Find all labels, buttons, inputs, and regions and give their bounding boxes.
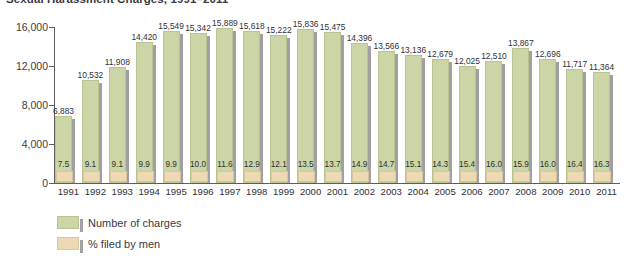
x-axis-label: 2001: [324, 186, 351, 197]
x-axis-label: 1992: [82, 186, 109, 197]
x-axis-label: 1998: [243, 186, 270, 197]
x-axis-label: 1991: [55, 186, 82, 197]
bar-charges[interactable]: 13,86715.9: [512, 48, 529, 183]
bar-charges[interactable]: 15,61812.9: [243, 31, 260, 183]
x-axis-label: 1997: [216, 186, 243, 197]
bar-percent-men[interactable]: [513, 171, 530, 182]
bar-percent-men[interactable]: [271, 171, 288, 182]
bar-charges[interactable]: 12,51016.0: [485, 61, 502, 183]
bar-charges[interactable]: 15,47513.7: [324, 32, 341, 183]
bar-percent-men[interactable]: [460, 171, 477, 182]
bar-charges[interactable]: 11,71716.4: [566, 69, 583, 183]
x-axis-label: 1994: [136, 186, 163, 197]
bar-shadow: [476, 69, 479, 183]
bar-value-label: 11,908: [105, 57, 130, 67]
bar-charges[interactable]: 12,69616.0: [539, 59, 556, 183]
bar-percent-men[interactable]: [83, 171, 100, 182]
bar-charges[interactable]: 15,83613.5: [297, 29, 314, 183]
bar-percent-men[interactable]: [486, 171, 503, 182]
bar-percent-label: 9.1: [85, 160, 96, 169]
x-axis-label: 1999: [270, 186, 297, 197]
bar-percent-men[interactable]: [137, 171, 154, 182]
x-axis-label: 2010: [566, 186, 593, 197]
bar-slot[interactable]: 15,22212.1: [270, 27, 297, 183]
bar-slot[interactable]: 15,88911.6: [216, 27, 243, 183]
bar-percent-label: 11.6: [217, 160, 232, 169]
x-axis-label: 2000: [297, 186, 324, 197]
bar-percent-men[interactable]: [110, 171, 127, 182]
legend-swatch-icon: [57, 237, 79, 250]
bar-charges[interactable]: 15,88911.6: [216, 28, 233, 183]
plot-area: 04,0008,00012,00016,000 6,8837.510,5329.…: [54, 27, 620, 183]
x-axis-label: 1993: [109, 186, 136, 197]
y-tick-label: 4,000: [22, 138, 48, 150]
bar-charges[interactable]: 10,5329.1: [82, 80, 99, 183]
bar-slot[interactable]: 15,34210.0: [190, 27, 217, 183]
bar-shadow: [583, 72, 586, 183]
bar-charges[interactable]: 13,56614.7: [378, 51, 395, 183]
x-axis-label: 2004: [405, 186, 432, 197]
bar-percent-men[interactable]: [217, 171, 234, 182]
x-axis-label: 2003: [378, 186, 405, 197]
bar-slot[interactable]: 12,69616.0: [539, 27, 566, 183]
bar-value-label: 15,342: [185, 23, 211, 33]
bar-slot[interactable]: 14,4209.9: [136, 27, 163, 183]
bar-charges[interactable]: 11,9089.1: [109, 67, 126, 183]
bar-slot[interactable]: 12,51016.0: [485, 27, 512, 183]
bar-percent-men[interactable]: [379, 171, 396, 182]
bar-shadow: [314, 32, 317, 183]
bar-slot[interactable]: 12,67914.3: [432, 27, 459, 183]
bar-charges[interactable]: 15,22212.1: [270, 35, 287, 183]
bar-slot[interactable]: 11,71716.4: [566, 27, 593, 183]
bar-shadow: [99, 83, 102, 183]
bar-percent-men[interactable]: [244, 171, 261, 182]
bar-charges[interactable]: 12,02515.4: [459, 66, 476, 183]
bar-percent-men[interactable]: [325, 171, 342, 182]
bar-slot[interactable]: 15,47513.7: [324, 27, 351, 183]
bar-slot[interactable]: 15,5499.9: [163, 27, 190, 183]
bar-slot[interactable]: 11,36416.3: [593, 27, 620, 183]
bar-percent-label: 14.3: [432, 160, 448, 169]
bar-slot[interactable]: 15,83613.5: [297, 27, 324, 183]
bar-percent-label: 9.9: [139, 160, 150, 169]
bar-value-label: 11,364: [589, 62, 614, 72]
bar-charges[interactable]: 13,13615.1: [405, 55, 422, 183]
bar-value-label: 15,549: [158, 21, 184, 31]
bar-percent-men[interactable]: [56, 171, 73, 182]
bar-charges[interactable]: 15,34210.0: [190, 33, 207, 183]
legend-item[interactable]: Number of charges: [57, 214, 182, 231]
bar-percent-men[interactable]: [567, 171, 584, 182]
bar-value-label: 10,532: [78, 70, 104, 80]
x-axis-label: 1996: [190, 186, 217, 197]
bar-percent-men[interactable]: [298, 171, 315, 182]
x-axis-label: 2007: [485, 186, 512, 197]
bar-percent-label: 12.1: [271, 160, 287, 169]
bar-percent-men[interactable]: [164, 171, 181, 182]
y-tick-label: 0: [42, 177, 48, 189]
bar-slot[interactable]: 11,9089.1: [109, 27, 136, 183]
bar-charges[interactable]: 14,39614.9: [351, 43, 368, 183]
bar-percent-men[interactable]: [406, 171, 423, 182]
bar-value-label: 15,889: [212, 18, 238, 28]
bar-percent-label: 16.4: [567, 160, 583, 169]
bar-charges[interactable]: 11,36416.3: [593, 72, 610, 183]
bar-percent-men[interactable]: [352, 171, 369, 182]
bar-percent-men[interactable]: [433, 171, 450, 182]
bar-shadow: [260, 34, 263, 183]
x-axis-labels: 1991199219931994199519961997199819992000…: [55, 186, 620, 202]
bar-charges[interactable]: 15,5499.9: [163, 31, 180, 183]
bar-slot[interactable]: 6,8837.5: [55, 27, 82, 183]
bar-charges[interactable]: 6,8837.5: [55, 116, 72, 183]
bar-shadow: [449, 62, 452, 183]
bar-charges[interactable]: 14,4209.9: [136, 42, 153, 183]
bar-shadow: [395, 54, 398, 183]
bar-percent-men[interactable]: [191, 171, 208, 182]
bar-percent-men[interactable]: [594, 171, 611, 182]
bar-charges[interactable]: 12,67914.3: [432, 59, 449, 183]
bar-percent-men[interactable]: [540, 171, 557, 182]
legend-item[interactable]: % filed by men: [57, 235, 182, 252]
bar-slot[interactable]: 15,61812.9: [243, 27, 270, 183]
bar-slot[interactable]: 10,5329.1: [82, 27, 109, 183]
bar-shadow: [529, 51, 532, 183]
bar-value-label: 13,867: [508, 38, 534, 48]
